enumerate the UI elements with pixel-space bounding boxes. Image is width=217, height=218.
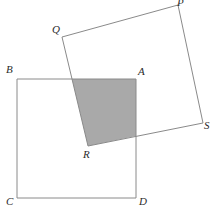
vertex-label-r: R bbox=[83, 149, 90, 160]
geometry-canvas bbox=[0, 0, 217, 218]
vertex-label-d: D bbox=[139, 196, 147, 207]
vertex-label-p: P bbox=[177, 0, 184, 8]
vertex-label-b: B bbox=[6, 64, 13, 75]
vertex-label-s: S bbox=[204, 120, 210, 131]
geometry-figure: BACDQPSR bbox=[0, 0, 217, 218]
vertex-label-c: C bbox=[6, 196, 13, 207]
vertex-label-q: Q bbox=[52, 24, 60, 35]
vertex-label-a: A bbox=[138, 66, 145, 77]
shaded-overlap-region bbox=[72, 79, 136, 146]
